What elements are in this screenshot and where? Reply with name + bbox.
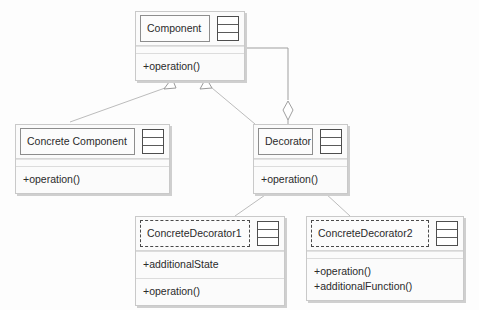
class-operations-decorator: +operation() xyxy=(254,166,347,193)
class-header-concrete-component: Concrete Component xyxy=(16,125,169,159)
class-box-concrete-decorator-1[interactable]: ConcreteDecorator1 +additionalState +ope… xyxy=(135,216,285,306)
class-attributes-concrete-decorator-1: +additionalState xyxy=(136,251,284,278)
member-additional-state: +additionalState xyxy=(143,257,277,272)
member-operation: +operation() xyxy=(261,172,340,187)
class-box-component[interactable]: Component +operation() xyxy=(135,11,245,81)
class-spacer xyxy=(16,159,169,166)
class-operations-concrete-decorator-1: +operation() xyxy=(136,278,284,305)
edge-decorator-component xyxy=(200,78,255,124)
class-box-decorator[interactable]: Decorator +operation() xyxy=(253,124,348,194)
class-spacer xyxy=(136,46,244,53)
class-operations-concrete-component: +operation() xyxy=(16,166,169,193)
class-grid-icon xyxy=(320,129,342,154)
class-spacer xyxy=(254,159,347,166)
hollow-diamond-icon xyxy=(283,101,293,120)
class-name-concrete-decorator-2: ConcreteDecorator2 xyxy=(311,220,429,247)
class-grid-icon xyxy=(436,221,458,246)
class-header-decorator: Decorator xyxy=(254,125,347,159)
edge-concretecomponent-component xyxy=(70,78,176,122)
member-operation: +operation() xyxy=(23,172,162,187)
member-operation: +operation() xyxy=(143,59,237,74)
class-header-concrete-decorator-1: ConcreteDecorator1 xyxy=(136,217,284,251)
class-header-component: Component xyxy=(136,12,244,46)
class-box-concrete-decorator-2[interactable]: ConcreteDecorator2 +operation() +additio… xyxy=(306,216,464,301)
class-name-decorator: Decorator xyxy=(258,128,313,155)
class-operations-component: +operation() xyxy=(136,53,244,80)
class-grid-icon xyxy=(142,129,164,154)
class-spacer xyxy=(307,251,463,258)
edge-component-decorator-aggregation xyxy=(245,48,293,124)
class-operations-concrete-decorator-2: +operation() +additionalFunction() xyxy=(307,258,463,300)
class-header-concrete-decorator-2: ConcreteDecorator2 xyxy=(307,217,463,251)
member-operation: +operation() xyxy=(143,284,277,299)
class-grid-icon xyxy=(217,16,239,41)
class-box-concrete-component[interactable]: Concrete Component +operation() xyxy=(15,124,170,194)
class-name-component: Component xyxy=(140,15,210,42)
class-name-concrete-component: Concrete Component xyxy=(20,128,135,155)
class-grid-icon xyxy=(257,221,279,246)
class-name-concrete-decorator-1: ConcreteDecorator1 xyxy=(140,220,250,247)
uml-class-diagram: Component +operation() Concrete Componen… xyxy=(0,0,479,310)
member-additional-function: +additionalFunction() xyxy=(314,279,456,294)
member-operation: +operation() xyxy=(314,264,456,279)
